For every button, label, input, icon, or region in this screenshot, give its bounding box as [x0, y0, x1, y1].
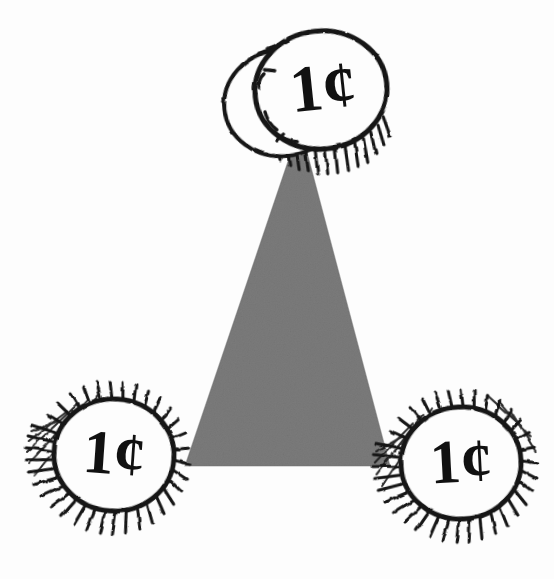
coin-triangle-drawing: 1¢	[0, 0, 554, 579]
coin-bottom-left-value: 1¢	[81, 417, 148, 489]
illustration-canvas: 1¢	[0, 0, 554, 579]
coin-top-value: 1¢	[286, 47, 359, 126]
coin-bottom-right-value: 1¢	[428, 425, 493, 496]
